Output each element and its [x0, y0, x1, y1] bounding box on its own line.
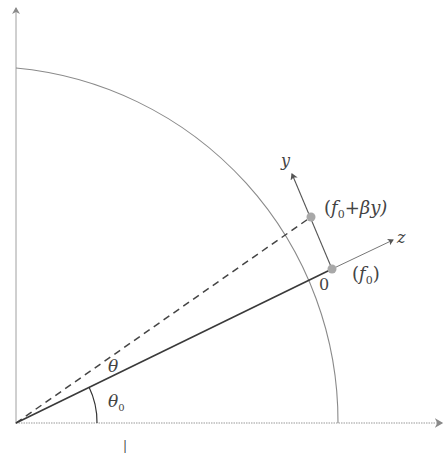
diagram-canvas: y z 0 (f0) (f0+βy) θ θ0 |	[0, 0, 448, 453]
local-origin-label: 0	[319, 275, 329, 294]
local-y-axis	[292, 174, 332, 269]
z-axis-label: z	[396, 228, 406, 247]
dashed-radius-line	[16, 217, 311, 423]
y-axis-label: y	[280, 151, 291, 170]
point-f0	[328, 265, 337, 274]
theta0-label: θ0	[108, 391, 125, 413]
point-f0-plus-beta-y	[307, 213, 316, 222]
theta-label: θ	[108, 356, 118, 376]
point-f0-label: (f0)	[352, 263, 380, 287]
theta0-angle-arc	[89, 387, 97, 423]
point-shift-label: (f0+βy)	[324, 197, 387, 221]
quarter-circle-arc	[16, 68, 338, 423]
x-tick-mark: |	[123, 439, 127, 453]
solid-radius-line	[16, 269, 332, 423]
